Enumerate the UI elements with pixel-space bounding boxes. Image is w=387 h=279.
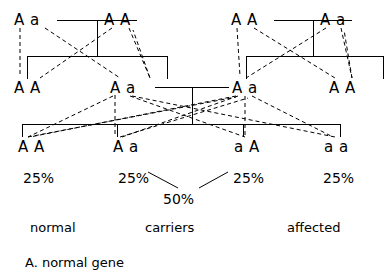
percentage-4: 25% [323,171,354,185]
genotype-g2-left-outer: A A [14,81,41,96]
allele-line-l5 [133,30,150,78]
percentage-1: 25% [23,171,54,185]
genotype-g3-child-4: a a [324,140,349,155]
allele-line-c6 [122,96,238,137]
bracket-left-arm [148,172,178,188]
percentage-combined: 50% [163,192,194,206]
allele-line-c9 [28,97,236,137]
allele-line-r2 [254,28,335,78]
allele-line-c8 [252,96,333,137]
genotype-g3-child-2: A a [113,140,139,155]
allele-line-r1 [237,28,240,76]
allele-line-c10 [120,98,248,137]
genotype-g2-right-inner: A a [232,81,258,96]
allele-line-r3 [246,28,326,78]
genotype-g1-left-mother: A a [14,13,40,28]
phenotype-label-affected: affected [287,221,340,234]
genotype-g2-left-inner: A a [110,81,136,96]
allele-line-l2 [45,28,120,78]
bracket-right-arm [199,172,228,188]
right-family-pedigree-lines [246,20,383,79]
fifty-percent-bracket [148,172,228,188]
allele-line-l3 [40,28,112,78]
genotype-g3-child-3: a A [234,140,260,155]
genotype-g1-right-mother: A A [231,13,258,28]
percentage-3: 25% [233,171,264,185]
figure-caption: A. normal gene [25,256,124,269]
allele-line-c4 [132,96,335,137]
phenotype-label-carriers: carriers [145,221,194,234]
allele-line-r5 [344,30,352,78]
left-family-allele-lines [20,28,150,78]
percentage-2: 25% [118,171,149,185]
left-family-pedigree-lines [27,20,167,79]
center-family-allele-lines [28,95,335,137]
allele-line-c2 [28,96,113,137]
phenotype-label-normal: normal [30,221,76,234]
genotype-g2-right-outer: A A [329,81,356,96]
genotype-g1-left-father: A A [104,13,131,28]
genetics-inheritance-diagram: A a A A A A A a A A A a A a A A A A A a … [0,0,387,279]
right-family-allele-lines [237,28,352,78]
genotype-g3-child-1: A A [18,140,45,155]
genotype-g1-right-father: A a [320,13,346,28]
